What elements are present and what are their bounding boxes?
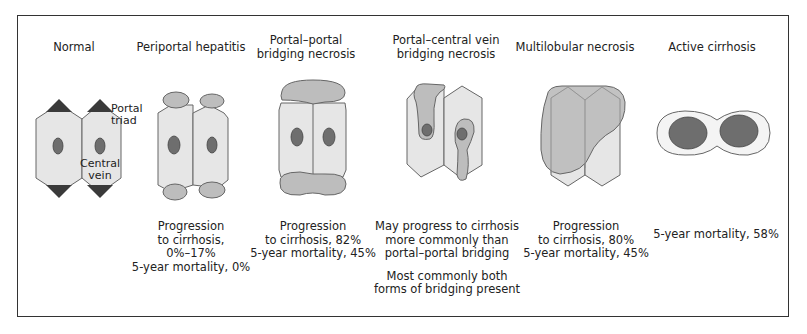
caption-line: to cirrhosis, bbox=[132, 234, 250, 248]
caption-line: forms of bridging present bbox=[374, 283, 520, 297]
caption-periportal-hepatitis: Progression to cirrhosis, 0%–17% 5-year … bbox=[132, 220, 250, 274]
portal-triad-label: Portal triad bbox=[111, 103, 143, 127]
caption-line: to cirrhosis, 82% bbox=[250, 234, 376, 248]
caption-line: 5-year mortality, 45% bbox=[523, 247, 649, 261]
multilobular-necrosis-lobules bbox=[541, 86, 625, 186]
portal-central-bridging-lobules bbox=[407, 84, 482, 180]
caption-line: 5-year mortality, 58% bbox=[653, 228, 779, 242]
caption-line: Progression bbox=[132, 220, 250, 234]
caption-line: May progress to cirrhosis bbox=[374, 220, 520, 234]
caption-portal-portal-bridging: Progression to cirrhosis, 82% 5-year mor… bbox=[250, 220, 376, 261]
caption-line: 0%–17% bbox=[132, 247, 250, 261]
portal-portal-bridging-lobules bbox=[279, 80, 346, 195]
caption-line: Progression bbox=[523, 220, 649, 234]
caption-line: more commonly than bbox=[374, 234, 520, 248]
caption-line: 5-year mortality, 0% bbox=[132, 261, 250, 275]
active-cirrhosis-nodules bbox=[657, 111, 770, 155]
central-vein-label: Central vein bbox=[80, 158, 120, 182]
caption-line: Most commonly both bbox=[374, 270, 520, 284]
caption-multilobular-necrosis: Progression to cirrhosis, 80% 5-year mor… bbox=[523, 220, 649, 261]
periportal-hepatitis-lobules bbox=[158, 92, 228, 200]
caption-portal-central-bridging: May progress to cirrhosis more commonly … bbox=[374, 220, 520, 297]
caption-line: portal–portal bridging bbox=[374, 247, 520, 261]
caption-active-cirrhosis: 5-year mortality, 58% bbox=[653, 228, 779, 242]
caption-line: Progression bbox=[250, 220, 376, 234]
caption-line: to cirrhosis, 80% bbox=[523, 234, 649, 248]
caption-line: 5-year mortality, 45% bbox=[250, 247, 376, 261]
